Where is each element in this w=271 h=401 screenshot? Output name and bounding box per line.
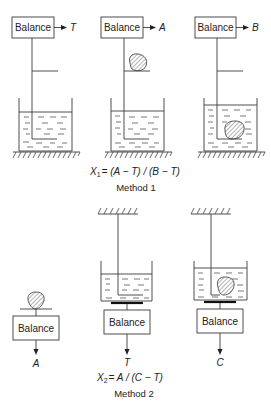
method1-panel-2: Balance A (101, 17, 172, 158)
balance-label: Balance (197, 22, 234, 33)
method1-caption: Method 1 (116, 182, 156, 193)
balance-label: Balance (18, 323, 55, 334)
output-label: B (252, 22, 259, 33)
suspension-rod (118, 214, 143, 295)
ceiling-hatch (98, 208, 138, 214)
output-label: T (70, 22, 77, 33)
balance-label: Balance (109, 317, 146, 328)
svg-text:X2= A / (C − T): X2= A / (C − T) (96, 372, 163, 384)
water-dashes (23, 117, 67, 147)
method1-panel-3: Balance B (195, 17, 265, 158)
ground-hatch (105, 152, 172, 158)
solid-sample-icon (225, 121, 244, 139)
method1-formula: X1= (A − T) / (B − T) (89, 166, 180, 178)
diagram-canvas: Balance T Balance A (0, 0, 271, 401)
output-label: C (216, 357, 224, 368)
formula-subscript: 2 (104, 377, 108, 384)
method2-caption: Method 2 (114, 388, 154, 399)
solid-sample-icon (129, 54, 146, 71)
balance-label: Balance (15, 22, 52, 33)
balance-label: Balance (104, 22, 141, 33)
method2-panel-1: Balance A (13, 292, 59, 369)
output-label: A (158, 22, 166, 33)
arrow-head-icon (218, 349, 223, 355)
arrow-head-icon (125, 349, 130, 355)
suspension-rod (32, 38, 57, 139)
method1-panel-1: Balance T (12, 17, 80, 158)
arrow-head-icon (34, 349, 39, 355)
suspension-rod (124, 38, 149, 139)
method2-panel-3: Balance C (191, 208, 247, 368)
svg-text:X1= (A − T) / (B − T): X1= (A − T) / (B − T) (89, 166, 180, 178)
method2-formula: X2= A / (C − T) (96, 372, 163, 384)
formula-subscript: 1 (97, 171, 101, 178)
output-label: A (32, 358, 40, 369)
arrow-head-icon (243, 25, 249, 30)
formula-rhs: = (A − T) / (B − T) (102, 166, 180, 177)
method2-panel-2: Balance T (98, 208, 152, 368)
ground-hatch (13, 152, 80, 158)
ceiling-hatch (191, 208, 231, 214)
solid-sample-icon (28, 292, 44, 309)
arrow-head-icon (61, 25, 67, 30)
balance-label: Balance (202, 316, 239, 327)
ground-hatch (198, 152, 265, 158)
output-label: T (124, 357, 131, 368)
formula-rhs: = A / (C − T) (109, 372, 163, 383)
water-dashes (115, 116, 159, 147)
arrow-head-icon (150, 25, 156, 30)
solid-sample-icon (217, 277, 234, 295)
